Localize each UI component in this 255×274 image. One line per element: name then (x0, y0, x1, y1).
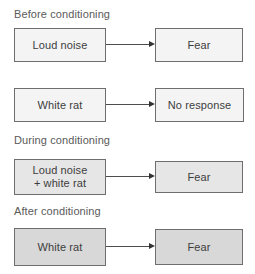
node-stimulus-white-rat-after: White rat (14, 228, 106, 266)
row-during-compound: Loud noise + white rat Fear (0, 159, 255, 195)
section-during-conditioning: During conditioning Loud noise + white r… (0, 132, 255, 198)
row-before-loud-noise: Loud noise Fear (0, 28, 255, 62)
node-stimulus-white-rat: White rat (14, 88, 106, 122)
node-stimulus-loud-noise: Loud noise (14, 28, 106, 62)
node-response-fear: Fear (155, 28, 243, 62)
node-stimulus-loud-noise-and-white-rat: Loud noise + white rat (14, 159, 106, 195)
section-title-after: After conditioning (14, 205, 101, 218)
conditioning-diagram: Before conditioning Loud noise Fear Whit… (0, 0, 255, 274)
arrow-right-icon-after (106, 242, 155, 252)
node-response-fear-after: Fear (155, 229, 243, 265)
arrow-right-icon-during (106, 172, 155, 182)
arrow-right-icon-before-1 (106, 40, 155, 50)
section-title-during: During conditioning (14, 134, 110, 147)
section-after-conditioning: After conditioning White rat Fear (0, 203, 255, 274)
arrow-right-icon-before-2 (106, 100, 155, 110)
section-title-before: Before conditioning (14, 8, 110, 21)
node-response-fear-during: Fear (155, 161, 243, 193)
section-before-conditioning: Before conditioning Loud noise Fear Whit… (0, 0, 255, 128)
row-after-white-rat: White rat Fear (0, 228, 255, 266)
row-before-white-rat: White rat No response (0, 88, 255, 122)
node-response-no-response: No response (155, 88, 244, 122)
